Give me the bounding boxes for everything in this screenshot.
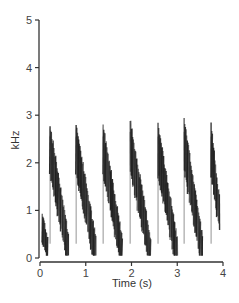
- spectrogram-note: [158, 123, 178, 256]
- spectrogram-note: [50, 126, 69, 255]
- x-tick-label: 0: [37, 267, 43, 279]
- y-tick-label: 5: [26, 14, 32, 26]
- y-axis-label: kHz: [9, 131, 21, 150]
- y-tick-label: 2: [26, 157, 32, 169]
- x-tick-label: 3: [174, 267, 180, 279]
- y-axis: 012345: [26, 14, 39, 264]
- x-tick-label: 4: [220, 267, 226, 279]
- x-axis-label: Time (s): [112, 277, 152, 289]
- y-tick-label: 0: [26, 252, 32, 264]
- spectrogram-note: [103, 124, 123, 255]
- spectrogram-note: [184, 118, 202, 256]
- spectrogram-notes: [42, 118, 220, 256]
- y-tick-label: 1: [26, 204, 32, 216]
- spectrogram-note: [76, 125, 96, 256]
- spectrogram-chart: 012345 01234 kHz Time (s): [0, 0, 239, 303]
- y-tick-label: 4: [26, 62, 32, 74]
- spectrogram-note: [42, 214, 48, 256]
- y-tick-label: 3: [26, 109, 32, 121]
- spectrogram-note: [130, 121, 151, 256]
- x-tick-label: 1: [83, 267, 89, 279]
- spectrogram-note: [211, 123, 220, 244]
